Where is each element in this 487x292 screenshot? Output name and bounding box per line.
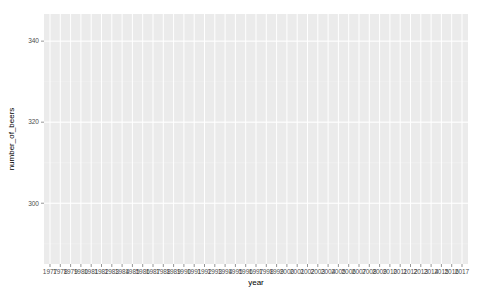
x-axis-title: year [248, 278, 264, 287]
y-axis: 300320340 [28, 37, 44, 206]
x-axis: 1977197819791980198119821983198419851986… [43, 264, 470, 275]
y-axis-title: number_of_beers [7, 108, 16, 171]
y-tick-label: 300 [28, 200, 39, 207]
chart: 300320340 197719781979198019811982198319… [0, 0, 487, 292]
y-tick-label: 340 [28, 37, 39, 44]
y-tick-label: 320 [28, 118, 39, 125]
x-tick-label: 2017 [455, 268, 470, 275]
